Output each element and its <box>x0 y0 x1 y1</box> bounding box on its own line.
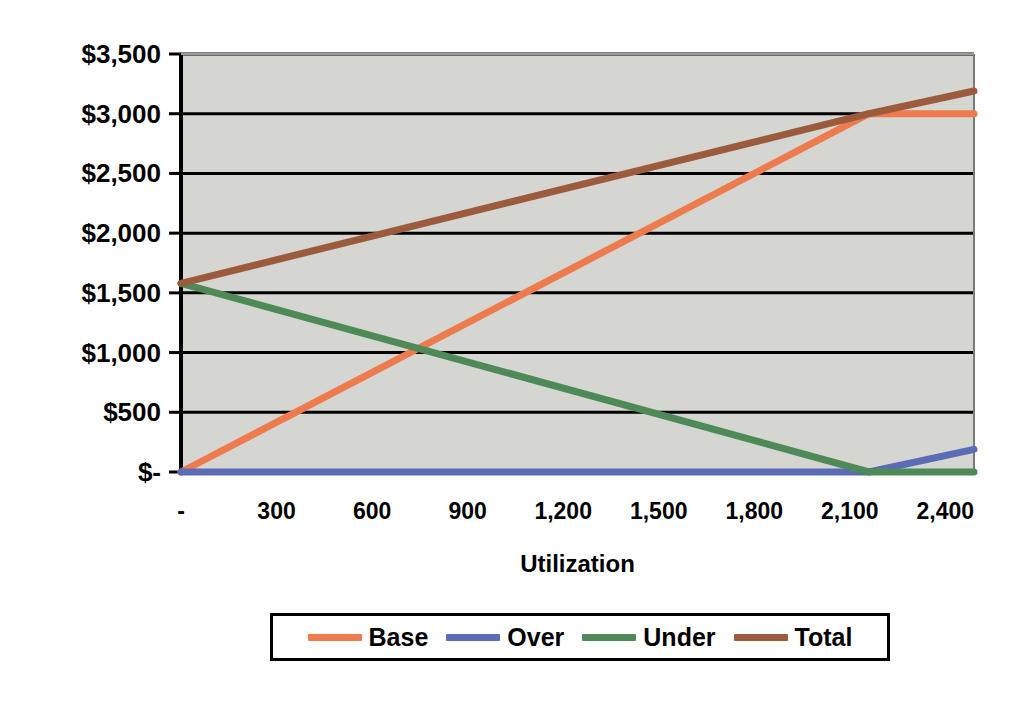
legend-color-swatch <box>582 634 636 641</box>
x-axis-title: Utilization <box>181 550 974 578</box>
legend-entry-base[interactable]: Base <box>299 625 438 650</box>
legend-entry-under[interactable]: Under <box>573 625 724 650</box>
y-axis-tick-label: $2,500 <box>81 160 161 186</box>
legend-entry-total[interactable]: Total <box>725 625 862 650</box>
legend-label: Over <box>507 625 564 650</box>
y-axis-tick-label: $- <box>138 459 161 485</box>
x-axis-tick-label: 1,200 <box>513 500 613 523</box>
x-axis-tick-label: 600 <box>322 500 422 523</box>
y-axis-tick-label: $1,000 <box>81 340 161 366</box>
legend-label: Total <box>795 625 853 650</box>
x-axis-tick-label: 1,500 <box>609 500 709 523</box>
y-axis-tick-label: $3,500 <box>81 41 161 67</box>
x-axis-tick-label: 900 <box>418 500 518 523</box>
y-axis-tick-label: $1,500 <box>81 280 161 306</box>
x-axis-tick-label: 1,800 <box>704 500 804 523</box>
x-axis-tick-label: 2,400 <box>895 500 995 523</box>
legend-color-swatch <box>734 634 788 641</box>
chart-legend: BaseOverUnderTotal <box>270 613 890 661</box>
y-axis-tick-label: $3,000 <box>81 101 161 127</box>
x-axis-tick-label: - <box>131 500 231 523</box>
legend-color-swatch <box>446 634 500 641</box>
y-axis-tick-label: $500 <box>103 399 161 425</box>
legend-entry-over[interactable]: Over <box>437 625 573 650</box>
chart-container: $-$500$1,000$1,500$2,000$2,500$3,000$3,5… <box>0 0 1022 710</box>
y-axis-tick-label: $2,000 <box>81 220 161 246</box>
legend-label: Under <box>643 625 715 650</box>
legend-label: Base <box>369 625 429 650</box>
x-axis-tick-label: 300 <box>227 500 327 523</box>
x-axis-tick-label: 2,100 <box>800 500 900 523</box>
legend-color-swatch <box>308 634 362 641</box>
